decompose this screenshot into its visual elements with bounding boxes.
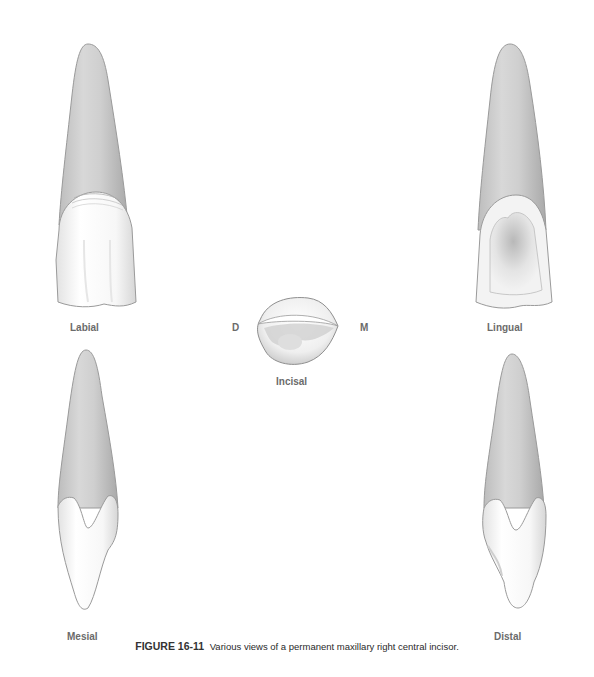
figure-caption: FIGURE 16-11 Various views of a permanen… <box>0 640 594 652</box>
mesial-view <box>48 346 128 616</box>
incisal-view <box>250 290 345 370</box>
incisal-label: Incisal <box>276 376 307 387</box>
figure-number: FIGURE 16-11 <box>135 640 204 652</box>
distal-view <box>472 346 552 616</box>
distal-tooth-illustration <box>472 346 552 616</box>
lingual-label: Lingual <box>487 322 523 333</box>
lingual-view <box>462 40 562 315</box>
mesial-marker: M <box>360 322 368 333</box>
distal-marker: D <box>232 322 239 333</box>
figure-caption-text: Various views of a permanent maxillary r… <box>210 641 459 652</box>
labial-tooth-illustration <box>44 40 144 315</box>
incisal-tooth-illustration <box>250 290 345 370</box>
mesial-tooth-illustration <box>48 346 128 616</box>
labial-view <box>44 40 144 315</box>
labial-label: Labial <box>70 322 99 333</box>
lingual-tooth-illustration <box>462 40 562 315</box>
